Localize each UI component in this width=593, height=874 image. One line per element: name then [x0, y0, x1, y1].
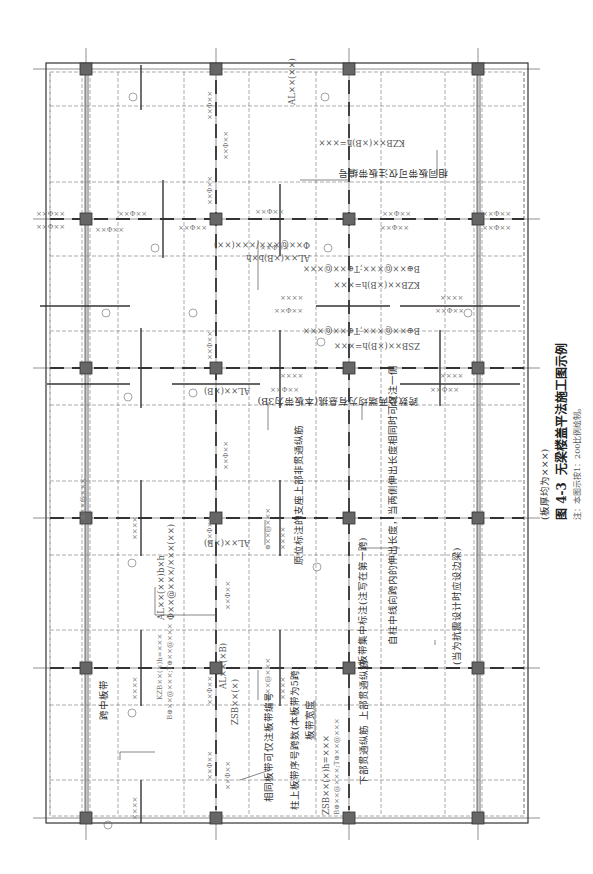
svg-text:××Φ××: ××Φ××: [222, 441, 230, 470]
svg-text:上部贯通纵筋: 上部贯通纵筋: [358, 660, 369, 720]
al-top-label: AL××(××): [287, 58, 297, 106]
svg-text:××××: ××××: [440, 294, 463, 302]
svg-text:××Φ××: ××Φ××: [222, 131, 230, 160]
svg-text:AL××(×B): AL××(×B): [204, 386, 251, 396]
svg-text:⊕××@×××: ⊕××@×××: [79, 478, 87, 520]
column-strip-lines: [50, 80, 524, 810]
svg-text:原位标注的支座上部非贯通纵筋: 原位标注的支座上部非贯通纵筋: [293, 425, 304, 565]
svg-text:ZSB××(×B)h=×××: ZSB××(×B)h=×××: [334, 341, 420, 351]
figure-number: 图 4-3: [555, 482, 569, 520]
svg-text:××Φ××: ××Φ××: [430, 386, 459, 394]
svg-text:××Φ××: ××Φ××: [260, 244, 289, 252]
svg-text:(板厚均为×××): (板厚均为×××): [539, 449, 550, 520]
svg-text:Φ××@×××/×××(××): Φ××@×××/×××(××): [166, 524, 176, 620]
svg-text:××Φ××: ××Φ××: [206, 751, 214, 780]
svg-text:××Φ××: ××Φ××: [255, 208, 284, 216]
svg-text:AL××(×B)b×h: AL××(×B)b×h: [245, 253, 311, 263]
svg-text:KZB××(×B)h=×××: KZB××(×B)h=×××: [318, 138, 405, 148]
figure-note: 注：本图示按1：200比例绘制。: [572, 404, 582, 520]
svg-text:B⊕××@×××;T⊕××@×××: B⊕××@×××;T⊕××@×××: [303, 326, 420, 336]
svg-text:××Φ××: ××Φ××: [224, 581, 232, 610]
svg-text:××××: ××××: [280, 372, 303, 380]
svg-text:B⊕××@×××;T⊕××@×××: B⊕××@×××;T⊕××@×××: [166, 623, 174, 720]
drawing-canvas: KZB××(×B)h=××× 相同板带可仅注板带编号 B⊕××@×××;T⊕××…: [0, 0, 593, 874]
svg-text:板带集中标注(注写在第一跨): 板带集中标注(注写在第一跨): [357, 538, 368, 665]
svg-text:××××: ××××: [280, 294, 303, 302]
svg-text:KZB××(×)h=×××: KZB××(×)h=×××: [156, 634, 164, 700]
svg-text:××Φ××: ××Φ××: [206, 91, 214, 120]
svg-text:××Φ××: ××Φ××: [95, 226, 124, 234]
svg-text:××Φ××: ××Φ××: [382, 210, 411, 218]
svg-text:相同板带可仅注板带编号: 相同板带可仅注板带编号: [263, 692, 274, 802]
svg-text:××Φ××: ××Φ××: [274, 307, 303, 315]
svg-text:B⊕××@×××;T⊕××@×××: B⊕××@×××;T⊕××@×××: [333, 718, 341, 815]
svg-text:××××: ××××: [279, 527, 287, 550]
svg-text:××××: ××××: [131, 517, 139, 540]
strip-boundaries-horizontal: [50, 106, 524, 780]
lower-labels: 跨中板带 KZB××(×)h=××× B⊕××@×××;T⊕××@××× AL×…: [98, 365, 462, 815]
svg-text:××Φ××: ××Φ××: [380, 224, 409, 232]
axis-lines: [33, 48, 540, 840]
svg-text:ZSB××(×): ZSB××(×): [230, 679, 240, 725]
figure-title: 无梁楼盖平法施工图示例: [554, 343, 569, 476]
svg-text:⊕××@×××: ⊕××@×××: [264, 508, 272, 550]
strip-numbers: [102, 93, 472, 829]
svg-text:KZB××(×B)h=×××: KZB××(×B)h=×××: [333, 280, 420, 290]
svg-text:AL××(××)b×h: AL××(××)b×h: [156, 555, 166, 621]
svg-text:板带宽度: 板带宽度: [304, 700, 315, 740]
strip-boundaries-vertical: [50, 72, 524, 816]
svg-text:××Φ××: ××Φ××: [118, 210, 147, 218]
svg-text:××Φ××: ××Φ××: [206, 331, 214, 360]
svg-text:下部贯通纵筋: 下部贯通纵筋: [358, 725, 369, 785]
svg-text:柱上板带序号跨数(本板带为5跨): 柱上板带序号跨数(本板带为5跨): [289, 667, 300, 810]
svg-text:××Φ××: ××Φ××: [482, 224, 511, 232]
upper-labels: KZB××(×B)h=××× 相同板带可仅注板带编号 B⊕××@×××;T⊕××…: [204, 138, 448, 548]
svg-text:××Φ××: ××Φ××: [224, 761, 232, 790]
svg-text:相同板带可仅注板带编号: 相同板带可仅注板带编号: [338, 168, 448, 179]
svg-text:(当为抗震设计时应设边梁): (当为抗震设计时应设边梁): [451, 548, 462, 665]
svg-text:××Φ××: ××Φ××: [36, 223, 65, 231]
svg-text:××Φ××: ××Φ××: [206, 676, 214, 705]
edge-beam-lines: [85, 72, 480, 816]
svg-text:××Φ××: ××Φ××: [206, 516, 214, 545]
svg-text:××Φ××: ××Φ××: [36, 210, 65, 218]
rebar-labels-vertical: ××Φ×× ××Φ×× ××Φ×× ××Φ×× ××Φ×× ××Φ×× ××Φ×…: [79, 91, 287, 820]
svg-text:AL××(×B): AL××(×B): [218, 643, 228, 690]
svg-text:××Φ××: ××Φ××: [482, 210, 511, 218]
svg-text:××××: ××××: [440, 372, 463, 380]
svg-text:跨中板带: 跨中板带: [98, 680, 109, 720]
svg-text:××Φ××: ××Φ××: [178, 224, 207, 232]
svg-text:××××: ××××: [131, 677, 139, 700]
svg-text:自柱中线向跨内的伸出长度，当两侧伸出长度相同时可仅注一侧: 自柱中线向跨内的伸出长度，当两侧伸出长度相同时可仅注一侧: [387, 365, 398, 645]
svg-text:××Φ××: ××Φ××: [206, 176, 214, 205]
svg-text:××Φ××: ××Φ××: [435, 307, 464, 315]
svg-text:B⊕××@×××;T⊕××@×××: B⊕××@×××;T⊕××@×××: [303, 264, 420, 274]
svg-text:××××: ××××: [131, 797, 139, 820]
figure-caption: (板厚均为×××) 图 4-3 无梁楼盖平法施工图示例 注：本图示按1：200比…: [539, 343, 582, 520]
svg-text:ZSB××(×)h=×××: ZSB××(×)h=×××: [321, 735, 331, 815]
svg-text:××××: ××××: [279, 677, 287, 700]
svg-text:××Φ××: ××Φ××: [270, 386, 299, 394]
